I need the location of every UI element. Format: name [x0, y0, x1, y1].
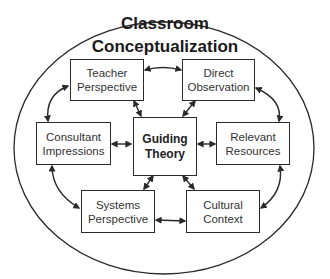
title-line-1: Classroom [0, 14, 330, 34]
node-label-line1: Consultant [43, 130, 105, 144]
arrow-theory-cultural [183, 176, 194, 189]
arrow-teacher-direct [145, 68, 181, 71]
arrow-resources-cultural [261, 166, 281, 208]
node-label-line2: Impressions [43, 144, 105, 158]
node-label-line2: Perspective [88, 212, 148, 226]
node-label-line1: Relevant [226, 130, 281, 144]
node-label-line2: Perspective [77, 80, 137, 94]
node-label-line2: Observation [187, 80, 249, 94]
arrow-systems-consultant [52, 166, 79, 208]
node-systems-perspective: SystemsPerspective [81, 190, 155, 233]
node-cultural-context: CulturalContext [186, 190, 260, 233]
node-relevant-resources: RelevantResources [216, 122, 290, 165]
diagram-title: Classroom Conceptualization [0, 14, 330, 57]
title-line-2: Conceptualization [0, 37, 330, 57]
node-consultant-impressions: ConsultantImpressions [36, 122, 111, 165]
arrow-theory-systems [144, 176, 153, 189]
node-label-line1: Direct [187, 66, 249, 80]
node-label-line1: Teacher [77, 66, 137, 80]
arrow-theory-teacher [134, 101, 141, 116]
node-teacher-perspective: TeacherPerspective [70, 59, 144, 101]
node-label-line2: Theory [142, 147, 187, 162]
arrow-consultant-teacher [48, 86, 68, 121]
arrow-cultural-systems [156, 220, 185, 221]
node-label-line1: Guiding [142, 132, 187, 147]
node-label-line2: Context [203, 212, 243, 226]
node-guiding-theory: GuidingTheory [133, 117, 197, 176]
node-direct-observation: DirectObservation [182, 59, 255, 101]
node-label-line1: Cultural [203, 198, 243, 212]
arrow-theory-direct [183, 101, 195, 116]
arrow-direct-resources [256, 88, 280, 121]
node-label-line1: Systems [88, 198, 148, 212]
node-label-line2: Resources [226, 144, 281, 158]
